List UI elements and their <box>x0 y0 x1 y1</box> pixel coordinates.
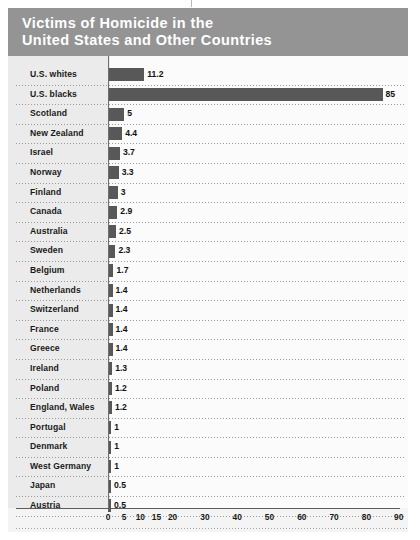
category-label: Scotland <box>30 108 67 118</box>
x-axis-line <box>16 508 400 509</box>
bar-row: Netherlands1.4 <box>8 282 408 302</box>
bar-value-label: 0.5 <box>114 480 126 490</box>
bar-row: Australia2.5 <box>8 223 408 243</box>
bar <box>108 147 120 160</box>
bar-row: Denmark1 <box>8 438 408 458</box>
category-label: U.S. whites <box>30 69 77 79</box>
chart-title-band: Victims of Homicide in the United States… <box>8 8 408 56</box>
bar-value-label: 1.7 <box>116 265 128 275</box>
bar-value-label: 4.4 <box>125 128 137 138</box>
bar-value-label: 1.4 <box>116 285 128 295</box>
bar-row: Japan0.5 <box>8 477 408 497</box>
x-tick-label: 5 <box>122 512 127 522</box>
category-label: Switzerland <box>30 304 79 314</box>
x-tick-label: 90 <box>394 512 403 522</box>
x-tick-label: 80 <box>362 512 371 522</box>
bar-value-label: 1 <box>114 461 119 471</box>
x-tick-label: 0 <box>106 512 111 522</box>
x-axis-tick-labels: 0510152030405060708090 <box>8 512 408 528</box>
category-label: Denmark <box>30 441 67 451</box>
bar-row: Portugal1 <box>8 419 408 439</box>
chart-frame: U.S. whites11.2U.S. blacks85Scotland5New… <box>8 56 408 532</box>
bar-value-label: 1.2 <box>115 383 127 393</box>
bar <box>108 245 115 258</box>
x-tick-label: 70 <box>329 512 338 522</box>
category-label: Norway <box>30 167 62 177</box>
bar-row: Finland3 <box>8 184 408 204</box>
bar <box>108 68 144 81</box>
x-tick-label: 20 <box>168 512 177 522</box>
bar <box>108 127 122 140</box>
category-label: Belgium <box>30 265 65 275</box>
bar <box>108 166 119 179</box>
bar-value-label: 2.5 <box>119 226 131 236</box>
category-label: Netherlands <box>30 285 81 295</box>
bar-value-label: 2.3 <box>118 245 130 255</box>
bar <box>108 186 118 199</box>
bar <box>108 88 383 101</box>
bar-value-label: 1.4 <box>116 324 128 334</box>
bar-value-label: 1.4 <box>116 304 128 314</box>
category-label: Greece <box>30 343 60 353</box>
bar <box>108 225 116 238</box>
bar-value-label: 3.3 <box>122 167 134 177</box>
chart-page: Victims of Homicide in the United States… <box>0 0 420 540</box>
category-label: West Germany <box>30 461 91 471</box>
category-label: New Zealand <box>30 128 84 138</box>
x-tick-label: 10 <box>136 512 145 522</box>
bar-value-label: 3.7 <box>123 147 135 157</box>
bar-row: Israel3.7 <box>8 144 408 164</box>
bar-rows: U.S. whites11.2U.S. blacks85Scotland5New… <box>8 66 408 517</box>
category-label: U.S. blacks <box>30 89 77 99</box>
bar-row: Switzerland1.4 <box>8 301 408 321</box>
bar-value-label: 3 <box>121 187 126 197</box>
bar-row: Sweden2.3 <box>8 242 408 262</box>
bar-row: U.S. blacks85 <box>8 86 408 106</box>
x-tick-label: 15 <box>152 512 161 522</box>
category-label: Finland <box>30 187 61 197</box>
category-label: Ireland <box>30 363 59 373</box>
bar-row: France1.4 <box>8 321 408 341</box>
bar <box>108 108 124 121</box>
bar-row: Ireland1.3 <box>8 360 408 380</box>
page-crop-mark <box>191 0 192 7</box>
bar-value-label: 5 <box>127 108 132 118</box>
bar-row: Greece1.4 <box>8 340 408 360</box>
bar-value-label: 1.3 <box>115 363 127 373</box>
category-label: France <box>30 324 59 334</box>
x-tick-label: 60 <box>297 512 306 522</box>
bar-value-label: 2.9 <box>120 206 132 216</box>
bar-row: West Germany1 <box>8 458 408 478</box>
bar <box>108 206 117 219</box>
bar-value-label: 1.2 <box>115 402 127 412</box>
bar-row: Canada2.9 <box>8 203 408 223</box>
category-label: Canada <box>30 206 62 216</box>
bar-row: Norway3.3 <box>8 164 408 184</box>
bar-value-label: 1.4 <box>116 343 128 353</box>
bar-value-label: 1 <box>114 422 119 432</box>
bar-value-label: 85 <box>386 89 396 99</box>
zero-axis-line <box>108 56 110 508</box>
category-label: Japan <box>30 480 55 490</box>
bar-row: Belgium1.7 <box>8 262 408 282</box>
bar-row: England, Wales1.2 <box>8 399 408 419</box>
bottom-dotted-rule <box>16 528 408 529</box>
category-label: Portugal <box>30 422 66 432</box>
bar-row: New Zealand4.4 <box>8 125 408 145</box>
bar-value-label: 1 <box>114 441 119 451</box>
category-label: England, Wales <box>30 402 95 412</box>
bar-row: U.S. whites11.2 <box>8 66 408 86</box>
bar-row: Scotland5 <box>8 105 408 125</box>
page-title: Victims of Homicide in the United States… <box>22 15 272 49</box>
x-tick-label: 40 <box>233 512 242 522</box>
x-tick-label: 50 <box>265 512 274 522</box>
category-label: Sweden <box>30 245 63 255</box>
category-label: Israel <box>30 147 53 157</box>
category-label: Poland <box>30 383 59 393</box>
x-tick-label: 30 <box>200 512 209 522</box>
bar-row: Poland1.2 <box>8 380 408 400</box>
bar-value-label: 11.2 <box>147 69 163 79</box>
category-label: Australia <box>30 226 68 236</box>
